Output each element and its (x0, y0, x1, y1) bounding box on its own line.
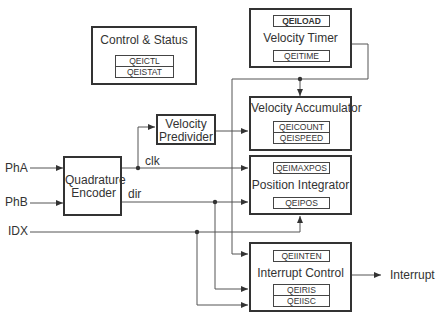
encoder-title-line2: Encoder (71, 186, 116, 200)
register-qeiinten: QEIINTEN (273, 250, 330, 262)
velocity-timer-block: QEILOAD Velocity Timer QEITIME (249, 8, 352, 68)
input-idx-label: IDX (8, 224, 28, 238)
velocity-predivider-block: Velocity Predivider (156, 114, 216, 145)
velocity-accumulator-block: Velocity Accumulator QEICOUNT QEISPEED (249, 96, 352, 151)
register-qeiisc: QEIISC (273, 295, 330, 307)
velocity-accumulator-title: Velocity Accumulator (251, 101, 350, 115)
input-pha-label: PhA (5, 161, 28, 175)
interrupt-control-block: QEIINTEN Interrupt Control QEIRIS QEIISC (249, 242, 352, 312)
interrupt-control-title: Interrupt Control (251, 266, 350, 280)
predivider-title-line2: Predivider (158, 130, 214, 144)
register-qeitime: QEITIME (273, 50, 330, 62)
predivider-title-line1: Velocity (158, 117, 214, 131)
encoder-title-line1: Quadrature (65, 173, 120, 187)
input-phb-label: PhB (5, 195, 28, 209)
interrupt-output-label: Interrupt (390, 268, 435, 282)
register-qeipos: QEIPOS (273, 197, 330, 209)
position-integrator-title: Position Integrator (251, 178, 350, 192)
position-integrator-block: QEIMAXPOS Position Integrator QEIPOS (249, 155, 352, 215)
quadrature-encoder-block: Quadrature Encoder (63, 156, 122, 216)
dir-signal-label: dir (128, 187, 141, 201)
control-status-block: Control & Status QEICTL QEISTAT (91, 26, 197, 85)
register-qeistat: QEISTAT (115, 66, 174, 78)
register-qeimaxpos: QEIMAXPOS (273, 162, 330, 174)
clk-signal-label: clk (145, 154, 160, 168)
control-status-title: Control & Status (93, 33, 195, 47)
velocity-timer-title: Velocity Timer (251, 31, 350, 45)
register-qeiload: QEILOAD (273, 15, 330, 27)
register-qeispeed: QEISPEED (273, 132, 330, 144)
